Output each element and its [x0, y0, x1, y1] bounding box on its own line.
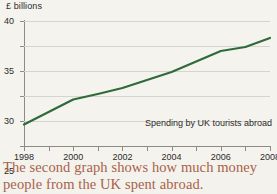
series-annotation-label: Spending by UK tourists abroad [145, 118, 272, 128]
y-tick-label: 30 [4, 116, 14, 126]
y-axis-unit-label: £ billions [6, 1, 42, 11]
x-tick-mark [270, 147, 271, 151]
x-tick-mark [24, 147, 25, 151]
x-tick-mark [98, 147, 99, 151]
caption-line-1: The second graph shows how much money [3, 159, 274, 176]
plot-area: 403530252015 199820002002200420062008 Sp… [24, 21, 270, 146]
x-tick-mark [245, 147, 246, 151]
y-tick-label: 40 [4, 16, 14, 26]
caption-line-2: people from the UK spent abroad. [3, 176, 274, 193]
x-tick-mark [122, 147, 123, 151]
figure-container: £ billions 403530252015 1998200020022004… [0, 0, 277, 194]
x-tick-mark [73, 147, 74, 151]
x-tick-mark [172, 147, 173, 151]
line-chart: £ billions 403530252015 1998200020022004… [0, 0, 277, 160]
x-tick-mark [147, 147, 148, 151]
y-tick-label: 35 [4, 66, 14, 76]
x-tick-mark [49, 147, 50, 151]
x-tick-mark [196, 147, 197, 151]
x-tick-mark [221, 147, 222, 151]
figure-caption: The second graph shows how much money pe… [0, 159, 277, 192]
